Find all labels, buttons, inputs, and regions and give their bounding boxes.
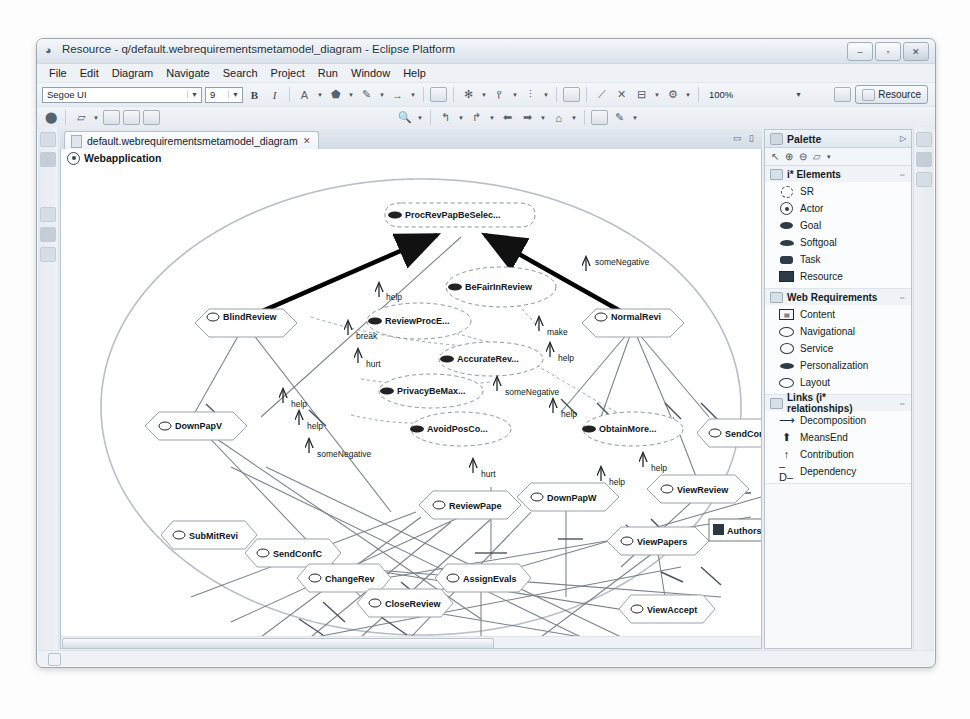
chevron-down-icon[interactable]: ▼ <box>542 92 550 98</box>
print-icon[interactable] <box>103 109 120 126</box>
line-color-icon[interactable]: ✎ <box>358 86 375 103</box>
menu-help[interactable]: Help <box>397 66 432 80</box>
canvas-horizontal-scrollbar[interactable] <box>61 636 761 648</box>
outline-icon[interactable] <box>916 132 932 147</box>
forward-icon[interactable]: ➡ <box>519 109 536 126</box>
palette-item-actor[interactable]: Actor <box>765 200 911 217</box>
chevron-down-icon[interactable]: ▼ <box>457 115 465 121</box>
menu-window[interactable]: Window <box>345 66 396 80</box>
palette-group-header[interactable]: Web Requirements ⇔ <box>765 289 911 305</box>
maximize-button[interactable]: ▫ <box>875 42 901 61</box>
new-icon[interactable]: ▱ <box>72 109 89 126</box>
editor-tab[interactable]: default.webrequirementsmetamodel_diagram… <box>64 131 319 150</box>
chevron-down-icon[interactable]: ▼ <box>653 92 661 98</box>
font-size-combo[interactable]: 9 ▼ <box>205 87 243 103</box>
palette-item-goal[interactable]: Goal <box>765 217 911 234</box>
tasks-view-icon[interactable] <box>40 247 56 262</box>
palette-group-header[interactable]: i* Elements ⇔ <box>765 166 911 182</box>
palette-collapse-icon[interactable]: ▷ <box>900 134 906 143</box>
project-explorer-icon[interactable] <box>40 152 56 167</box>
thumbnail-icon[interactable] <box>916 152 932 167</box>
palette-item-content[interactable]: ▤ Content <box>765 306 911 323</box>
zoom-in-icon[interactable]: ⊕ <box>785 151 793 162</box>
filter-icon[interactable]: ⚙ <box>664 86 681 103</box>
close-button[interactable]: ✕ <box>903 42 929 61</box>
align-icon[interactable]: ⫯ <box>491 86 508 103</box>
marquee-icon[interactable]: ▱ <box>813 151 821 162</box>
palette-item-layout[interactable]: Layout <box>765 374 911 391</box>
debug-icon[interactable]: ✎ <box>611 109 628 126</box>
minimize-button[interactable]: – <box>847 42 873 61</box>
distribute-icon[interactable]: ⫶ <box>522 86 539 103</box>
diagram-layout-icon[interactable]: ✻ <box>460 86 477 103</box>
palette-item-dependency[interactable]: –D– Dependency <box>765 463 911 480</box>
chevron-down-icon[interactable]: ▼ <box>539 115 547 121</box>
collapse-icon[interactable]: ⇔ <box>898 170 906 179</box>
chevron-down-icon[interactable]: ▼ <box>511 92 519 98</box>
arrow-type-icon[interactable]: → <box>389 86 406 103</box>
straighten-icon[interactable]: ⟋ <box>593 86 610 103</box>
chevron-down-icon[interactable]: ▼ <box>316 92 324 98</box>
redo-icon[interactable]: ↱ <box>468 109 485 126</box>
palette-item-meansend[interactable]: ⬆ MeansEnd <box>765 429 911 446</box>
font-name-combo[interactable]: Segoe UI ▼ <box>42 87 202 103</box>
palette-item-navigational[interactable]: Navigational <box>765 323 911 340</box>
chevron-down-icon[interactable]: ▾ <box>827 153 831 161</box>
chevron-down-icon[interactable]: ▼ <box>631 115 639 121</box>
menu-navigate[interactable]: Navigate <box>160 66 215 80</box>
outline-view-icon[interactable] <box>40 207 56 222</box>
menu-project[interactable]: Project <box>265 66 311 80</box>
properties-icon[interactable] <box>143 109 160 126</box>
font-color-button[interactable]: A <box>296 86 313 103</box>
palette-group-header[interactable]: Links (i* relationships) ⇔ <box>765 395 911 411</box>
i-star-diagram[interactable]: ProcRevPapBeSelec... BeFairInReview some… <box>61 167 761 637</box>
ruler-icon[interactable]: ⊟ <box>633 86 650 103</box>
palette-item-service[interactable]: Service <box>765 340 911 357</box>
back-icon[interactable]: ⬅ <box>499 109 516 126</box>
open-perspective-icon[interactable] <box>834 86 851 103</box>
undo-icon[interactable]: ↰ <box>437 109 454 126</box>
select-all-icon[interactable] <box>563 86 580 103</box>
validate-icon[interactable] <box>123 109 140 126</box>
image-icon[interactable] <box>430 86 447 103</box>
collapse-icon[interactable]: ⇔ <box>898 293 906 302</box>
palette-item-task[interactable]: Task <box>765 251 911 268</box>
snap-icon[interactable]: ✕ <box>613 86 630 103</box>
menu-run[interactable]: Run <box>312 66 344 80</box>
italic-button[interactable]: I <box>266 86 283 103</box>
menu-diagram[interactable]: Diagram <box>106 66 160 80</box>
menu-file[interactable]: File <box>43 66 73 80</box>
collapse-icon[interactable]: ⇔ <box>898 399 906 408</box>
fill-color-icon[interactable]: ⬟ <box>327 86 344 103</box>
zoom-combo[interactable]: 100% ▼ <box>705 87 805 103</box>
chevron-down-icon[interactable]: ▼ <box>409 92 417 98</box>
close-icon[interactable]: ✕ <box>303 136 311 146</box>
palette-item-sr[interactable]: SR <box>765 183 911 200</box>
zoom-out-icon[interactable]: ⊖ <box>799 151 807 162</box>
run-icon[interactable] <box>591 109 608 126</box>
chevron-down-icon[interactable]: ▼ <box>488 115 496 121</box>
menu-search[interactable]: Search <box>217 66 264 80</box>
scrollbar-thumb[interactable] <box>62 638 494 649</box>
chevron-down-icon[interactable]: ▼ <box>347 92 355 98</box>
perspective-icon[interactable] <box>40 132 56 147</box>
diagram-canvas[interactable]: ProcRevPapBeSelec... BeFairInReview some… <box>61 167 761 637</box>
chevron-down-icon[interactable]: ▼ <box>684 92 692 98</box>
search-icon[interactable]: 🔍 <box>396 109 413 126</box>
chevron-down-icon[interactable]: ▼ <box>416 115 424 121</box>
editor-minimize-maximize[interactable]: ▭ ▯ <box>733 133 756 143</box>
chevron-down-icon[interactable]: ▼ <box>570 115 578 121</box>
chevron-down-icon[interactable]: ▼ <box>92 115 100 121</box>
palette-item-resource[interactable]: Resource <box>765 268 911 285</box>
chevron-down-icon[interactable]: ▼ <box>378 92 386 98</box>
console-icon[interactable] <box>916 172 932 187</box>
menu-edit[interactable]: Edit <box>74 66 105 80</box>
palette-item-decomposition[interactable]: ⟶ Decomposition <box>765 412 911 429</box>
bold-button[interactable]: B <box>246 86 263 103</box>
home-icon[interactable]: ⌂ <box>550 109 567 126</box>
palette-item-personalization[interactable]: Personalization <box>765 357 911 374</box>
save-icon[interactable]: ⬤ <box>42 109 59 126</box>
chevron-down-icon[interactable]: ▼ <box>480 92 488 98</box>
properties-view-icon[interactable] <box>40 227 56 242</box>
palette-item-softgoal[interactable]: Softgoal <box>765 234 911 251</box>
